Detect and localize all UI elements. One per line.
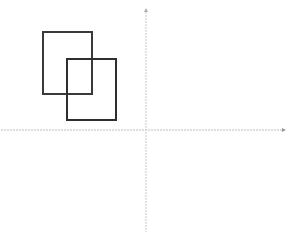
coordinate-plane-diagram (0, 0, 290, 232)
x-axis-arrow-icon (282, 128, 286, 132)
y-axis-arrow-icon (144, 8, 148, 12)
